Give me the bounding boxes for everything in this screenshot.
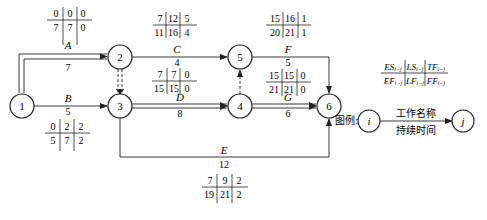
svg-text:2: 2 xyxy=(79,135,84,146)
timetable-B: 0 2 2 5 7 2 xyxy=(45,119,90,151)
svg-text:21: 21 xyxy=(284,84,294,95)
label-D-duration: 8 xyxy=(178,108,183,119)
svg-text:15: 15 xyxy=(154,83,164,94)
svg-text:0: 0 xyxy=(81,22,86,33)
svg-text:7: 7 xyxy=(208,175,213,186)
node-4: 4 xyxy=(228,94,252,118)
legend-duration: 持续时间 xyxy=(396,124,436,136)
svg-text:0: 0 xyxy=(185,69,190,80)
timetable-C: 7 12 5 11 16 4 xyxy=(153,12,197,38)
svg-text:LFi−j: LFi−j xyxy=(405,76,424,86)
svg-text:2: 2 xyxy=(65,121,70,132)
svg-text:20: 20 xyxy=(270,27,280,38)
svg-text:15: 15 xyxy=(169,83,179,94)
svg-text:11: 11 xyxy=(154,27,164,38)
label-F-duration: 5 xyxy=(286,57,291,68)
svg-text:ESi−j: ESi−j xyxy=(383,62,402,72)
svg-text:19: 19 xyxy=(204,189,214,200)
svg-text:2: 2 xyxy=(117,51,123,63)
node-3: 3 xyxy=(108,94,132,118)
legend-timetable: ESi−j LSi−j TFi−j EFi−j LFi−j FFi−j xyxy=(381,60,448,86)
node-1: 1 xyxy=(10,94,34,118)
timetable-E: 7 9 2 19 21 2 xyxy=(202,174,248,203)
svg-text:1: 1 xyxy=(302,27,307,38)
label-B-duration: 5 xyxy=(66,106,71,117)
label-C-duration: 4 xyxy=(175,57,180,68)
label-C-name: C xyxy=(173,43,181,55)
svg-text:0: 0 xyxy=(54,8,59,19)
svg-text:16: 16 xyxy=(168,27,178,38)
svg-text:0: 0 xyxy=(301,70,306,81)
svg-text:0: 0 xyxy=(81,8,86,19)
svg-text:15: 15 xyxy=(270,13,280,24)
svg-text:TFi−j: TFi−j xyxy=(427,62,445,72)
svg-text:4: 4 xyxy=(185,27,190,38)
svg-text:7: 7 xyxy=(68,22,73,33)
label-G-duration: 6 xyxy=(286,108,291,119)
arrow-G xyxy=(252,104,316,108)
label-E-name: E xyxy=(220,144,228,156)
svg-text:0: 0 xyxy=(185,83,190,94)
svg-text:21: 21 xyxy=(220,189,230,200)
timetable-D: 7 7 0 15 15 0 xyxy=(152,68,197,94)
label-E-duration: 12 xyxy=(219,159,229,170)
legend-work-name: 工作名称 xyxy=(396,107,436,119)
svg-text:2: 2 xyxy=(237,175,242,186)
label-A-duration: 7 xyxy=(66,62,71,73)
svg-text:2: 2 xyxy=(79,121,84,132)
node-5: 5 xyxy=(228,45,252,69)
node-2: 2 xyxy=(108,45,132,69)
legend-prefix: 图例: xyxy=(335,114,358,126)
svg-text:0: 0 xyxy=(68,8,73,19)
label-A-name: A xyxy=(64,39,72,51)
arrow-A xyxy=(19,54,107,93)
svg-text:21: 21 xyxy=(285,27,295,38)
svg-text:5: 5 xyxy=(51,135,56,146)
timetable-G: 15 15 0 21 21 0 xyxy=(266,69,311,96)
svg-text:9: 9 xyxy=(223,175,228,186)
svg-text:4: 4 xyxy=(237,100,243,112)
svg-text:15: 15 xyxy=(284,70,294,81)
svg-text:0: 0 xyxy=(301,84,306,95)
svg-text:7: 7 xyxy=(158,13,163,24)
timetable-F: 15 16 1 20 21 1 xyxy=(266,12,311,38)
svg-text:1: 1 xyxy=(302,13,307,24)
svg-text:0: 0 xyxy=(51,121,56,132)
svg-text:2: 2 xyxy=(237,189,242,200)
network-diagram: 1 2 3 4 5 6 A 7 B 5 C 4 D 8 F 5 G 6 E 12… xyxy=(0,0,487,220)
legend: ESi−j LSi−j TFi−j EFi−j LFi−j FFi−j 图例: … xyxy=(335,60,474,136)
label-F-name: F xyxy=(284,43,292,55)
svg-text:7: 7 xyxy=(172,69,177,80)
svg-text:5: 5 xyxy=(237,51,243,63)
svg-text:LSi−j: LSi−j xyxy=(406,62,424,72)
svg-text:7: 7 xyxy=(54,22,59,33)
svg-text:i: i xyxy=(367,115,370,127)
svg-text:16: 16 xyxy=(285,13,295,24)
svg-text:FFi−j: FFi−j xyxy=(426,76,446,86)
svg-text:12: 12 xyxy=(168,13,178,24)
svg-text:EFi−j: EFi−j xyxy=(383,76,403,86)
svg-text:21: 21 xyxy=(269,84,279,95)
svg-text:7: 7 xyxy=(158,69,163,80)
svg-text:7: 7 xyxy=(65,135,70,146)
svg-text:6: 6 xyxy=(326,100,332,112)
svg-text:5: 5 xyxy=(185,13,190,24)
svg-text:15: 15 xyxy=(269,70,279,81)
svg-text:1: 1 xyxy=(19,100,25,112)
svg-text:3: 3 xyxy=(117,100,123,112)
label-B-name: B xyxy=(65,92,72,104)
